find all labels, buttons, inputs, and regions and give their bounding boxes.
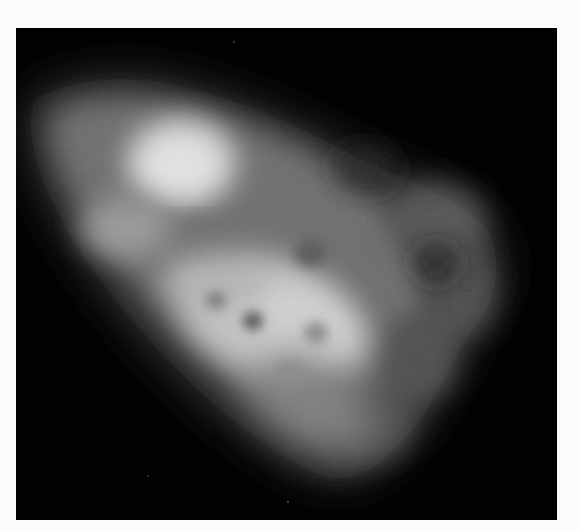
page xyxy=(0,0,579,531)
cell-micrograph xyxy=(16,28,557,520)
micrograph-canvas xyxy=(16,28,557,520)
